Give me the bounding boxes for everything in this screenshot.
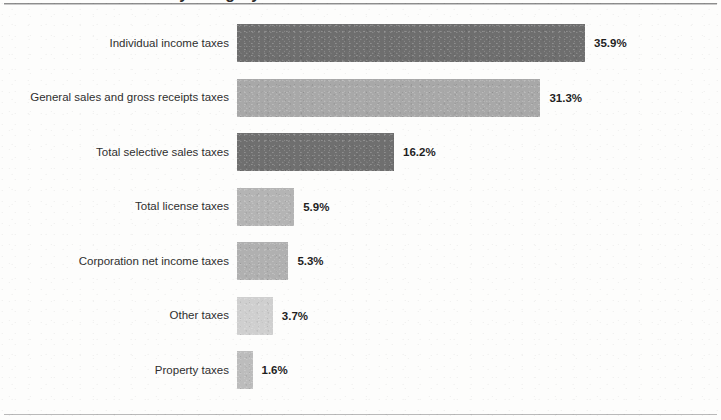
bar[interactable] (237, 297, 273, 335)
chart-page: State tax collections by category Indivi… (0, 0, 721, 420)
bar-value-label: 3.7% (282, 310, 308, 322)
bar-category-label: Individual income taxes (0, 37, 237, 50)
bar-row: General sales and gross receipts taxes31… (0, 79, 721, 117)
bar-row: Property taxes1.6% (0, 351, 721, 389)
bar-track: 31.3% (237, 79, 721, 117)
bar[interactable] (237, 188, 294, 226)
bar-category-label: Total selective sales taxes (0, 146, 237, 159)
bar-row: Individual income taxes35.9% (0, 24, 721, 62)
bar-chart-plot: Individual income taxes35.9%General sale… (0, 6, 721, 412)
bar-value-label: 5.3% (297, 255, 323, 267)
bar-row: Other taxes3.7% (0, 297, 721, 335)
bar-row: Total license taxes5.9% (0, 188, 721, 226)
bar-value-label: 1.6% (262, 364, 288, 376)
bar-value-label: 35.9% (594, 37, 627, 49)
bar-track: 1.6% (237, 351, 721, 389)
bar-category-label: General sales and gross receipts taxes (0, 91, 237, 104)
bar[interactable] (237, 242, 288, 280)
bar[interactable] (237, 24, 585, 62)
page-title: State tax collections by category (0, 0, 721, 2)
bar-track: 35.9% (237, 24, 721, 62)
footer-divider (4, 414, 717, 415)
header-divider-shadow (4, 4, 717, 5)
bar-row: Corporation net income taxes5.3% (0, 242, 721, 280)
bar-row: Total selective sales taxes16.2% (0, 133, 721, 171)
bar-category-label: Property taxes (0, 364, 237, 377)
bar[interactable] (237, 133, 394, 171)
bar-value-label: 31.3% (549, 92, 582, 104)
bar-category-label: Total license taxes (0, 200, 237, 213)
bar-value-label: 16.2% (403, 146, 436, 158)
bar-track: 3.7% (237, 297, 721, 335)
bar-track: 16.2% (237, 133, 721, 171)
chart-title-clip: State tax collections by category (0, 0, 721, 2)
bar-category-label: Other taxes (0, 309, 237, 322)
bar[interactable] (237, 79, 540, 117)
bar-track: 5.3% (237, 242, 721, 280)
bar-category-label: Corporation net income taxes (0, 255, 237, 268)
bar[interactable] (237, 351, 253, 389)
bar-value-label: 5.9% (303, 201, 329, 213)
bar-track: 5.9% (237, 188, 721, 226)
